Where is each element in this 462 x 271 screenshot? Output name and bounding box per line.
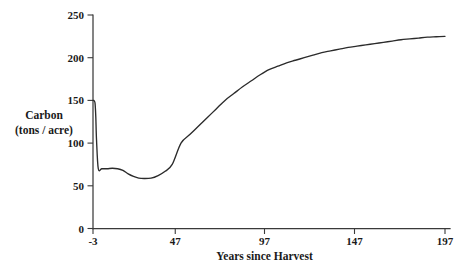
y-tick-label-50: 50 <box>73 180 85 192</box>
y-tick-label-0: 0 <box>79 223 85 235</box>
y-axis-ticks <box>88 15 94 229</box>
x-tick-label-97: 97 <box>259 235 271 247</box>
x-tick-label-147: 147 <box>346 235 363 247</box>
x-tick-label-47: 47 <box>170 235 182 247</box>
y-tick-label-100: 100 <box>68 137 85 149</box>
y-axis-tick-labels: 250 200 150 100 50 0 <box>68 9 85 235</box>
y-tick-label-250: 250 <box>68 9 85 21</box>
chart-figure: 250 200 150 100 50 0 -3 47 97 147 197 Ye… <box>0 0 462 271</box>
y-axis-title-line1: Carbon <box>25 109 63 121</box>
carbon-line-chart: 250 200 150 100 50 0 -3 47 97 147 197 Ye… <box>0 0 462 271</box>
y-tick-label-200: 200 <box>68 52 85 64</box>
carbon-curve <box>93 36 445 178</box>
x-axis-ticks <box>93 229 445 235</box>
y-axis-title-line2: (tons / acre) <box>15 124 73 137</box>
x-tick-label-197: 197 <box>437 235 454 247</box>
x-axis-tick-labels: -3 47 97 147 197 <box>88 235 453 247</box>
x-axis-title: Years since Harvest <box>216 250 313 262</box>
x-tick-label-minus3: -3 <box>88 235 98 247</box>
y-tick-label-150: 150 <box>68 94 85 106</box>
